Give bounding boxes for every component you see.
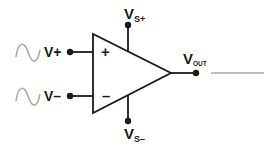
op-amp-diagram: V+ V– + – VS+ VS– VOUT	[0, 0, 276, 147]
terminal-supply-negative	[125, 118, 131, 124]
label-vs-minus: VS–	[124, 125, 145, 144]
label-vs-plus: VS+	[124, 5, 145, 24]
symbol-minus: –	[102, 87, 110, 104]
sine-wave-icon-inverting	[16, 88, 40, 105]
terminal-supply-positive	[125, 22, 131, 28]
terminal-output	[193, 70, 199, 76]
label-v-minus: V–	[44, 88, 61, 104]
symbol-plus: +	[101, 43, 110, 60]
label-vout: VOUT	[183, 50, 207, 67]
label-v-plus: V+	[44, 44, 62, 60]
sine-wave-icon-noninverting	[16, 44, 40, 61]
